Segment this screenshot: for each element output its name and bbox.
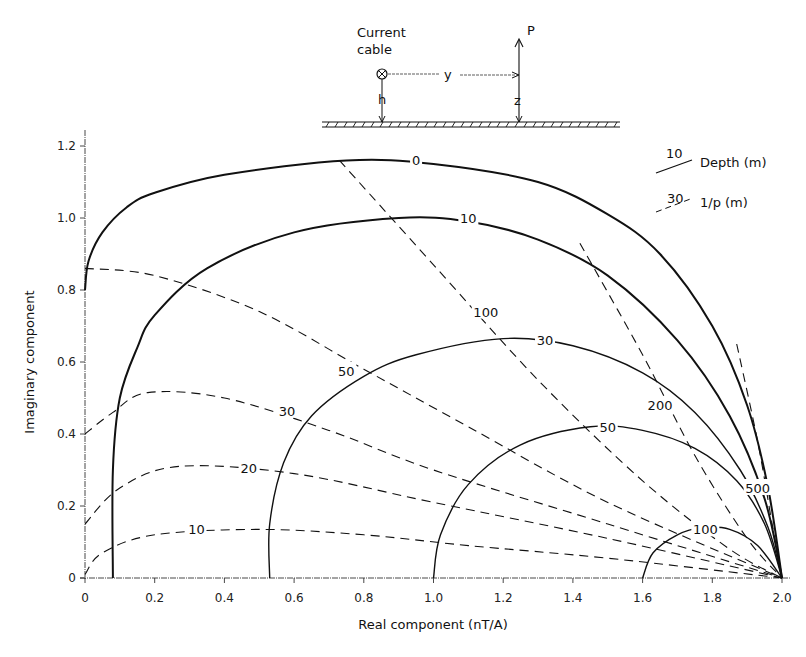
curve-label: 30 — [537, 333, 554, 348]
inset-diagram: Current cable y h P z — [322, 23, 620, 127]
y-tick-label: 0.4 — [57, 427, 76, 441]
curve-label: 10 — [460, 211, 477, 226]
x-tick-label: 1.4 — [563, 591, 582, 605]
depth-curve-0 — [85, 160, 782, 578]
point-p-label: P — [527, 23, 535, 38]
legend: 10 Depth (m) 30 1/p (m) — [656, 146, 767, 212]
y-tick-label: 1.0 — [57, 211, 76, 225]
x-axis-title: Real component (nT/A) — [358, 617, 507, 632]
x-tick-label: 1.6 — [633, 591, 652, 605]
x-axis-ticks: 00.20.40.60.81.01.21.41.61.82.0 — [81, 578, 791, 605]
x-tick-label: 0.8 — [354, 591, 373, 605]
curve-label: 200 — [648, 398, 673, 413]
curve-labels: 010305010010203050100200500 — [187, 151, 772, 537]
y-tick-label: 1.2 — [57, 139, 76, 153]
curve-label: 20 — [241, 461, 258, 476]
x-tick-label: 0 — [81, 591, 89, 605]
period-curve-30 — [85, 392, 782, 578]
y-tick-label: 0.2 — [57, 499, 76, 513]
period-curve-500 — [737, 344, 782, 578]
y-axis-title: Imaginary component — [22, 290, 37, 433]
x-tick-label: 0.6 — [285, 591, 304, 605]
y-axis-ticks: 00.20.40.60.81.01.2 — [57, 139, 85, 585]
y-tick-label: 0 — [68, 571, 76, 585]
curve-label: 10 — [188, 522, 205, 537]
ground-surface — [322, 122, 620, 127]
curve-label: 100 — [473, 305, 498, 320]
y-tick-label: 0.6 — [57, 355, 76, 369]
legend-depth-label: Depth (m) — [700, 155, 767, 170]
curve-label: 100 — [693, 522, 718, 537]
curve-label: 0 — [412, 153, 420, 168]
x-tick-label: 1.0 — [424, 591, 443, 605]
y-tick-label: 0.8 — [57, 283, 76, 297]
cable-cross-icon — [377, 69, 387, 79]
legend-period-sample: 30 — [667, 191, 684, 206]
cable-label-2: cable — [357, 42, 392, 57]
h-height-label: h — [378, 92, 386, 107]
z-height-label: z — [514, 93, 521, 108]
legend-period-label: 1/p (m) — [700, 195, 748, 210]
cable-label-1: Current — [357, 25, 406, 40]
x-tick-label: 2.0 — [772, 591, 791, 605]
curve-label: 500 — [745, 481, 770, 496]
legend-depth-sample: 10 — [666, 146, 683, 161]
depth-curve-10 — [112, 217, 782, 578]
x-tick-label: 0.2 — [145, 591, 164, 605]
curve-label: 50 — [338, 364, 355, 379]
chart-canvas: Current cable y h P z 10 Depth (m) 30 1/… — [0, 0, 806, 657]
period-curve-100 — [339, 160, 782, 578]
y-distance-label: y — [444, 67, 452, 82]
curve-label: 50 — [599, 420, 616, 435]
x-tick-label: 1.8 — [703, 591, 722, 605]
curve-label: 30 — [279, 404, 296, 419]
x-tick-label: 1.2 — [494, 591, 513, 605]
curves — [85, 160, 782, 578]
x-tick-label: 0.4 — [215, 591, 234, 605]
